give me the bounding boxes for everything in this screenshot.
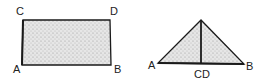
rectangle-figure: C D A B [13,5,121,75]
diagram-canvas: C D A B A B CD [0,0,265,84]
label-d: D [110,5,118,17]
label-b: B [114,63,121,75]
rectangle-shape [22,20,111,65]
rectangle-left-edge [22,20,23,65]
label-triangle-b: B [246,60,253,72]
label-triangle-a: A [148,59,156,71]
label-triangle-cd: CD [194,68,210,80]
triangle-figure: A B CD [148,20,253,80]
triangle-base [158,63,244,64]
label-a: A [13,63,21,75]
label-c: C [16,5,24,17]
